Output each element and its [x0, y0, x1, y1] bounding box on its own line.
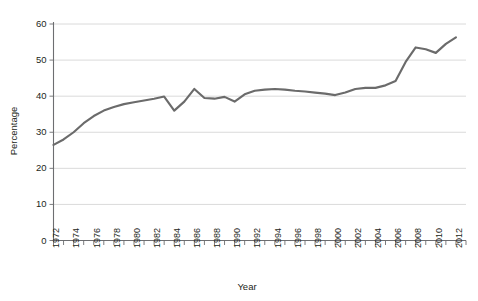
x-tick-label: 1990	[232, 228, 242, 248]
x-tick-label: 1976	[92, 228, 102, 248]
x-tick-label: 2000	[333, 228, 343, 248]
x-tick-label: 1992	[252, 228, 262, 248]
x-tick-label: 1980	[132, 228, 142, 248]
x-tick-label: 1998	[313, 228, 323, 248]
y-axis-title: Percentage	[8, 107, 19, 156]
y-tick-label: 60	[36, 18, 47, 29]
x-tick-label: 1994	[273, 228, 283, 248]
x-tick-label: 2006	[393, 228, 403, 248]
x-tick-label: 2008	[413, 228, 423, 248]
chart-canvas: 0102030405060 19721974197619781980198219…	[0, 0, 478, 301]
x-axis-title: Year	[237, 281, 256, 292]
x-tick-label: 1986	[192, 228, 202, 248]
y-tick-label: 40	[36, 90, 47, 101]
y-tick-label: 50	[36, 54, 47, 65]
y-tick-labels: 0102030405060	[36, 18, 54, 246]
y-tick-label: 20	[36, 162, 47, 173]
x-tick-label: 2004	[373, 228, 383, 248]
y-tick-label: 10	[36, 198, 47, 209]
x-tick-label: 1996	[293, 228, 303, 248]
gridlines	[54, 24, 467, 204]
x-tick-label: 2002	[353, 228, 363, 248]
y-tick-label: 0	[41, 235, 46, 246]
x-tick-label: 1984	[172, 228, 182, 248]
x-tick-label: 1978	[112, 228, 122, 248]
x-tick-label: 1974	[71, 228, 81, 248]
data-series	[54, 37, 456, 145]
series-line-percentage	[54, 37, 456, 145]
x-tick-label: 2012	[454, 228, 464, 248]
x-tick-label: 1988	[212, 228, 222, 248]
x-tick-label: 1972	[51, 228, 61, 248]
x-tick-label: 1982	[152, 228, 162, 248]
x-tick-labels: 1972197419761978198019821984198619881990…	[51, 228, 463, 248]
y-tick-label: 30	[36, 126, 47, 137]
line-chart: 0102030405060 19721974197619781980198219…	[0, 0, 478, 301]
x-tick-label: 2010	[434, 228, 444, 248]
